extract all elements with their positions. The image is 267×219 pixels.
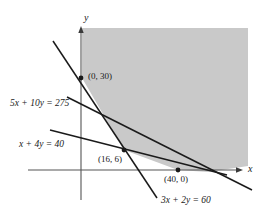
feasible-region-shading [82, 28, 248, 172]
equation-label-5x-10y-275: 5x + 10y = 275 [10, 99, 69, 109]
point-label-40-0: (40, 0) [164, 175, 188, 184]
graph-figure: y x 5x + 10y = 275 x + 4y = 40 3x + 2y =… [0, 0, 267, 219]
vertex-marker-16-6 [122, 148, 127, 153]
point-label-0-30: (0, 30) [88, 72, 112, 81]
equation-label-x-4y-40: x + 4y = 40 [19, 140, 64, 150]
equation-label-3x-2y-60: 3x + 2y = 60 [161, 196, 211, 206]
x-axis-label: x [248, 164, 252, 174]
vertex-marker-40-0 [176, 168, 181, 173]
y-axis-label: y [84, 13, 88, 23]
plot-canvas [0, 0, 267, 219]
x-axis-arrow [236, 167, 243, 172]
point-label-16-6: (16, 6) [98, 155, 122, 164]
vertex-marker-0-30 [79, 76, 84, 81]
